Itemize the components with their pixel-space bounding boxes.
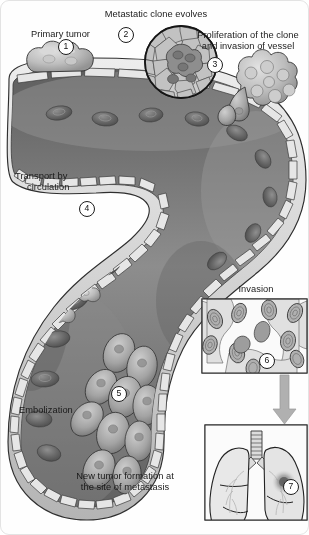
down-arrow-icon xyxy=(273,375,296,424)
metastasis-figure: Metastatic clone evolves Primary tumor P… xyxy=(0,0,309,535)
label-primary-tumor: Primary tumor xyxy=(31,29,90,40)
callout-6: 6 xyxy=(259,353,275,369)
callout-5: 5 xyxy=(111,386,127,402)
invasion-panel-art xyxy=(200,299,307,378)
label-transport-line2: circulation xyxy=(27,182,69,193)
callout-4: 4 xyxy=(79,201,95,217)
label-proliferation-line2: and invasion of vessel xyxy=(189,41,307,52)
label-invasion: Invasion xyxy=(204,284,308,295)
callout-7: 7 xyxy=(283,479,299,495)
callout-2: 2 xyxy=(118,27,134,43)
label-embolization: Embolization xyxy=(19,405,73,416)
callout-1: 1 xyxy=(58,39,74,55)
illustration-canvas xyxy=(1,1,309,535)
label-proliferation-line1: Proliferation of the clone xyxy=(189,30,307,41)
label-metastatic-clone: Metastatic clone evolves xyxy=(71,9,241,20)
label-new-tumor-line2: the site of metastasis xyxy=(57,482,193,493)
callout-3: 3 xyxy=(207,57,223,73)
label-new-tumor-line1: New tumor formation at xyxy=(57,471,193,482)
label-transport-line1: Transport by xyxy=(15,171,67,182)
